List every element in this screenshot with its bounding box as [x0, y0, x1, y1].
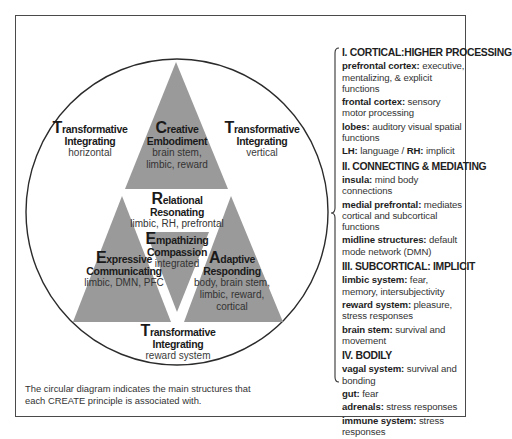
legend-item: medial prefrontal: mediates cortical and…	[342, 199, 466, 233]
legend-item: gut: fear	[342, 388, 466, 399]
legend-item: midline structures: default mode network…	[342, 234, 466, 257]
label-transformative-vertical: Transformative Integrating vertical	[224, 122, 299, 159]
figure-caption: The circular diagram indicates the main …	[25, 383, 255, 407]
label-transformative-reward: Transformative Integrating reward system	[140, 325, 215, 362]
legend-item: immune system: stress responses	[342, 415, 466, 438]
legend-section-title: III. SUBCORTICAL: IMPLICIT	[342, 261, 466, 272]
brain-structures-legend: I. CORTICAL:HIGHER PROCESSING prefrontal…	[342, 47, 466, 439]
legend-item: limbic system: fear, memory, intersubjec…	[342, 274, 466, 297]
legend-item: adrenals: stress responses	[342, 401, 466, 412]
label-relational-resonating: Relational Resonating limbic, RH, prefro…	[130, 193, 223, 230]
label-expressive-communicating: Expressive Communicating limbic, DMN, PF…	[84, 252, 163, 289]
legend-item: LH: language / RH: implicit	[342, 145, 466, 156]
legend-item: reward system: pleasure, stress response…	[342, 299, 466, 322]
legend-section-title: I. CORTICAL:HIGHER PROCESSING	[342, 47, 466, 58]
legend-item: vagal system: survival and bonding	[342, 363, 466, 386]
legend-bracket	[331, 48, 339, 382]
label-adaptive-responding: Adaptive Responding body, brain stem, li…	[194, 252, 270, 313]
legend-item: lobes: auditory visual spatial functions	[342, 121, 466, 144]
legend-item: insula: mind body connections	[342, 174, 466, 197]
legend-section-title: II. CONNECTING & MEDIATING	[342, 161, 466, 172]
legend-item: frontal cortex: sensory motor processing	[342, 96, 466, 119]
legend-item: brain stem: survival and movement	[342, 324, 466, 347]
legend-item: prefrontal cortex: executive, mentalizin…	[342, 60, 466, 94]
label-creative-embodiment: Creative Embodiment brain stem, limbic, …	[146, 122, 208, 171]
label-transformative-horizontal: Transformative Integrating horizontal	[52, 122, 127, 159]
legend-section-title: IV. BODILY	[342, 350, 466, 361]
